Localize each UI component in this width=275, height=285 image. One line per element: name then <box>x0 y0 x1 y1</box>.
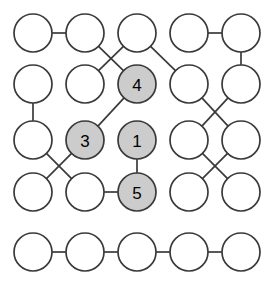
graph-node-r2c1[interactable] <box>14 65 52 103</box>
graph-node-r1c1[interactable] <box>14 14 52 52</box>
graph-node-r5c5[interactable] <box>222 233 260 271</box>
graph-node-r1c2[interactable] <box>66 14 104 52</box>
graph-node-r5c3[interactable] <box>118 233 156 271</box>
node-circle-plain[interactable] <box>222 65 260 103</box>
node-circle-plain[interactable] <box>66 65 104 103</box>
node-circle-plain[interactable] <box>66 233 104 271</box>
graph-node-4[interactable]: 4 <box>118 65 156 103</box>
graph-node-1[interactable]: 1 <box>118 121 156 159</box>
graph-node-r3c4[interactable] <box>170 121 208 159</box>
node-circle-plain[interactable] <box>222 173 260 211</box>
node-circle-plain[interactable] <box>222 121 260 159</box>
graph-node-5[interactable]: 5 <box>118 173 156 211</box>
graph-node-r5c4[interactable] <box>170 233 208 271</box>
graph-node-r4c1[interactable] <box>14 173 52 211</box>
node-circle-highlighted[interactable] <box>118 65 156 103</box>
graph-node-r1c5[interactable] <box>222 14 260 52</box>
node-circle-highlighted[interactable] <box>66 121 104 159</box>
node-circle-plain[interactable] <box>170 65 208 103</box>
node-circle-plain[interactable] <box>118 14 156 52</box>
node-circle-plain[interactable] <box>14 173 52 211</box>
node-circle-plain[interactable] <box>222 233 260 271</box>
graph-node-r5c2[interactable] <box>66 233 104 271</box>
graph-canvas: 4315 <box>0 0 275 285</box>
graph-node-r2c2[interactable] <box>66 65 104 103</box>
graph-edge <box>151 46 176 70</box>
node-circle-plain[interactable] <box>14 121 52 159</box>
graph-node-3[interactable]: 3 <box>66 121 104 159</box>
node-circle-plain[interactable] <box>118 233 156 271</box>
graph-node-r3c5[interactable] <box>222 121 260 159</box>
graph-node-r2c4[interactable] <box>170 65 208 103</box>
node-circle-plain[interactable] <box>14 65 52 103</box>
graph-node-r3c1[interactable] <box>14 121 52 159</box>
graph-node-r5c1[interactable] <box>14 233 52 271</box>
node-circle-plain[interactable] <box>222 14 260 52</box>
graph-node-r2c5[interactable] <box>222 65 260 103</box>
node-circle-plain[interactable] <box>66 14 104 52</box>
node-layer: 4315 <box>14 14 260 271</box>
node-circle-plain[interactable] <box>14 233 52 271</box>
graph-node-r4c5[interactable] <box>222 173 260 211</box>
graph-figure: 4315 <box>0 0 275 285</box>
node-circle-plain[interactable] <box>170 121 208 159</box>
node-circle-plain[interactable] <box>14 14 52 52</box>
node-circle-plain[interactable] <box>66 173 104 211</box>
graph-edge <box>98 98 124 126</box>
node-circle-plain[interactable] <box>170 173 208 211</box>
node-circle-highlighted[interactable] <box>118 121 156 159</box>
graph-node-r1c3[interactable] <box>118 14 156 52</box>
graph-node-r4c2[interactable] <box>66 173 104 211</box>
node-circle-plain[interactable] <box>170 233 208 271</box>
node-circle-highlighted[interactable] <box>118 173 156 211</box>
graph-node-r4c4[interactable] <box>170 173 208 211</box>
graph-node-r1c4[interactable] <box>170 14 208 52</box>
node-circle-plain[interactable] <box>170 14 208 52</box>
